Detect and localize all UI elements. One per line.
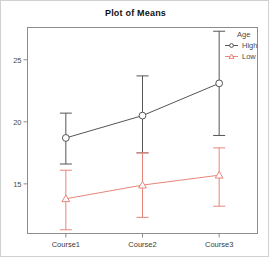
x-tick-label-Course3: Course3	[205, 240, 233, 249]
y-tick-label-15: 15	[13, 180, 21, 189]
y-tick-label-20: 20	[13, 118, 21, 127]
data-point-High-Course1	[62, 135, 69, 142]
y-tick-label-25: 25	[13, 56, 21, 65]
chart-panel: Plot of Means 152025Course1Course2Course…	[0, 0, 269, 257]
legend-label-High: High	[242, 41, 257, 50]
plot-area: 152025Course1Course2Course3AgeHighLow	[1, 1, 269, 257]
legend-label-Low: Low	[242, 52, 256, 61]
x-tick-label-Course2: Course2	[128, 240, 156, 249]
legend-marker-Low	[229, 54, 234, 58]
data-point-High-Course2	[139, 112, 146, 119]
legend-title: Age	[237, 30, 250, 39]
data-point-Low-Course3	[215, 171, 223, 178]
x-tick-label-Course1: Course1	[52, 240, 80, 249]
legend-marker-High	[230, 44, 234, 48]
data-point-High-Course3	[216, 80, 223, 87]
